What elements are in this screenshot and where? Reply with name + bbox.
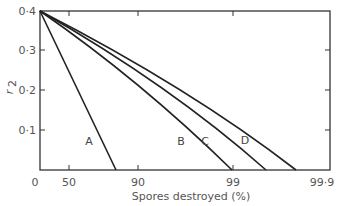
svg-text:2: 2 bbox=[6, 80, 19, 87]
y-tick-label: 0·4 bbox=[19, 5, 37, 18]
x-axis-title: Spores destroyed (%) bbox=[132, 190, 251, 203]
curves bbox=[40, 11, 296, 170]
x-tick-label: 99 bbox=[226, 176, 240, 189]
y-tick-label: 0·1 bbox=[19, 124, 37, 137]
x-tick-label: 99·9 bbox=[310, 176, 335, 189]
y-tick-label: 0·2 bbox=[19, 84, 37, 97]
y-ticks bbox=[40, 50, 330, 130]
curve-a bbox=[40, 11, 116, 170]
curve-label-a: A bbox=[85, 135, 93, 148]
curve-label-d: D bbox=[241, 134, 249, 147]
svg-text:r: r bbox=[3, 88, 16, 94]
curve-label-c: C bbox=[201, 135, 209, 148]
y-axis-title: r 2 bbox=[3, 80, 19, 94]
x-tick-label: 50 bbox=[62, 176, 76, 189]
x-tick-label: 90 bbox=[131, 176, 145, 189]
plot-frame bbox=[40, 11, 330, 170]
curve-label-b: B bbox=[177, 135, 185, 148]
x-tick-label: 0 bbox=[32, 176, 39, 189]
chart: 0·4 0·3 0·2 0·1 r 2 0 50 90 99 99·9 Spor… bbox=[0, 0, 341, 206]
y-tick-label: 0·3 bbox=[19, 44, 37, 57]
